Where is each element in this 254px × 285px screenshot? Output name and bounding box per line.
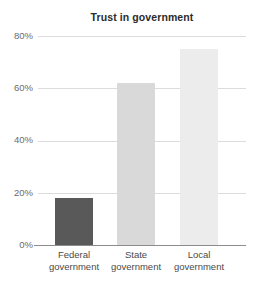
x-category-label-local-line1: Local — [165, 249, 233, 261]
x-category-label-federal: Federal government — [40, 249, 108, 272]
x-category-label-state: State government — [102, 249, 170, 272]
bar-slot-state — [117, 36, 155, 245]
x-category-label-local: Local government — [165, 249, 233, 272]
x-category-label-state-line1: State — [102, 249, 170, 261]
x-category-label-local-line2: government — [165, 261, 233, 273]
x-category-label-state-line2: government — [102, 261, 170, 273]
trust-in-government-bar-chart: Trust in government 80% 60% 40% 20% 0% F… — [0, 0, 254, 285]
bars-layer — [0, 0, 254, 285]
x-category-label-federal-line2: government — [40, 261, 108, 273]
bar-slot-federal — [55, 36, 93, 245]
bar-federal-government — [55, 198, 93, 245]
bar-state-government — [117, 83, 155, 245]
bar-local-government — [180, 49, 218, 245]
x-category-label-federal-line1: Federal — [40, 249, 108, 261]
bar-slot-local — [180, 36, 218, 245]
